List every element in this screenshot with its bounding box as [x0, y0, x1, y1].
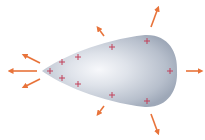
- field-arrow-icon-upper-right: [151, 8, 158, 27]
- charged-conductor-diagram: [0, 0, 205, 140]
- field-arrow-icon-lower-small: [98, 106, 104, 114]
- conductor-body: [42, 35, 177, 107]
- field-arrow-icon-lower-right: [151, 114, 158, 133]
- diagram-canvas: [0, 0, 205, 140]
- field-arrow-icon-tip-upper-left: [24, 55, 40, 63]
- field-arrow-icon-upper-small: [98, 28, 104, 36]
- field-arrow-icon-tip-lower-left: [24, 79, 40, 87]
